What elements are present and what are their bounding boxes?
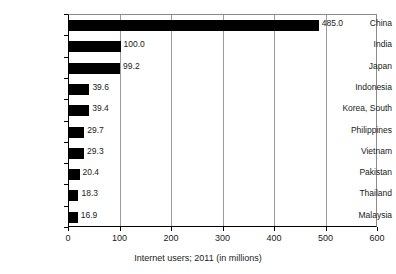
category-label: Korea, South xyxy=(328,102,392,115)
y-tick xyxy=(64,163,68,164)
y-tick xyxy=(64,99,68,100)
bar-value-label: 99.2 xyxy=(123,60,140,73)
category-label: Malaysia xyxy=(328,209,392,222)
bar xyxy=(69,84,89,95)
bar-value-label: 16.9 xyxy=(81,209,98,222)
category-label: Philippines xyxy=(328,124,392,137)
category-label: Thailand xyxy=(328,187,392,200)
x-tick-500 xyxy=(326,227,327,231)
x-tick-300 xyxy=(223,227,224,231)
bar-value-label: 39.4 xyxy=(92,102,109,115)
chart-screenshot: 485.0China100.0India99.2Japan39.6Indones… xyxy=(0,0,396,274)
category-label: Vietnam xyxy=(328,145,392,158)
category-label: China xyxy=(328,17,392,30)
x-tick-label: 0 xyxy=(48,232,88,245)
x-tick-label: 500 xyxy=(306,232,346,245)
x-tick-label: 200 xyxy=(151,232,191,245)
y-tick xyxy=(64,35,68,36)
category-label: India xyxy=(328,38,392,51)
bar xyxy=(69,127,84,138)
bar-value-label: 29.3 xyxy=(87,145,104,158)
y-tick xyxy=(64,184,68,185)
bar xyxy=(69,41,121,52)
y-tick xyxy=(64,78,68,79)
x-tick-200 xyxy=(171,227,172,231)
y-tick xyxy=(64,142,68,143)
y-tick xyxy=(64,57,68,58)
bar xyxy=(69,105,89,116)
x-tick-label: 400 xyxy=(254,232,294,245)
bar xyxy=(69,20,319,31)
bar-value-label: 18.3 xyxy=(81,187,98,200)
x-tick-600 xyxy=(377,227,378,231)
bar-value-label: 29.7 xyxy=(87,124,104,137)
y-tick xyxy=(64,121,68,122)
bar-value-label: 100.0 xyxy=(124,38,145,51)
bar xyxy=(69,63,120,74)
bar xyxy=(69,148,84,159)
y-tick xyxy=(64,14,68,15)
x-tick-100 xyxy=(120,227,121,231)
y-tick xyxy=(64,206,68,207)
x-tick-400 xyxy=(274,227,275,231)
x-axis-title: Internet users; 2011 (in millions) xyxy=(0,252,396,265)
bar xyxy=(69,169,80,180)
category-label: Indonesia xyxy=(328,81,392,94)
bar-value-label: 20.4 xyxy=(83,166,100,179)
category-label: Pakistan xyxy=(328,166,392,179)
x-tick-label: 300 xyxy=(203,232,243,245)
bar-value-label: 39.6 xyxy=(92,81,109,94)
x-tick-label: 600 xyxy=(357,232,396,245)
bar xyxy=(69,212,78,223)
category-label: Japan xyxy=(328,60,392,73)
x-tick-0 xyxy=(68,227,69,231)
x-tick-label: 100 xyxy=(100,232,140,245)
bar xyxy=(69,190,78,201)
